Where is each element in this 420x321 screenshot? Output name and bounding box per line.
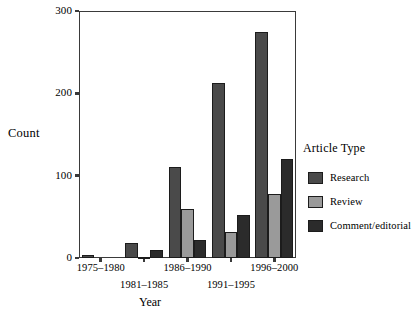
legend-swatch [308, 220, 323, 232]
y-tick-mark [75, 92, 79, 94]
legend-item[interactable]: Review [303, 190, 420, 214]
plot-area [79, 11, 296, 258]
x-tick-label: 1996–2000 [250, 262, 298, 273]
legend-item-label: Comment/editorial [330, 220, 411, 232]
x-tick-label: 1991–1995 [207, 279, 255, 290]
x-tick-label: 1975–1980 [77, 262, 125, 273]
legend-items: ResearchReviewComment/editorial [303, 166, 420, 238]
y-tick-mark [75, 10, 79, 12]
y-tick-mark [75, 257, 79, 259]
legend: Article Type ResearchReviewComment/edito… [303, 142, 420, 238]
legend-item[interactable]: Comment/editorial [303, 214, 420, 238]
legend-title: Article Type [303, 142, 420, 155]
y-tick-label: 200 [26, 87, 72, 98]
y-tick-label: 0 [26, 252, 72, 263]
y-tick-mark [75, 174, 79, 176]
x-tick-label: 1986–1990 [164, 262, 212, 273]
legend-swatch [308, 196, 323, 208]
x-tick-label: 1981–1985 [120, 279, 168, 290]
x-tick-mark [230, 258, 233, 262]
y-axis-title: Count [8, 127, 40, 140]
x-axis-title: Year [0, 296, 300, 309]
legend-swatch [308, 172, 323, 184]
legend-item-label: Research [330, 172, 369, 184]
legend-item[interactable]: Research [303, 166, 420, 190]
y-tick-label: 100 [26, 170, 72, 181]
legend-item-label: Review [330, 196, 363, 208]
y-tick-label: 300 [26, 5, 72, 16]
x-tick-mark [143, 258, 146, 262]
bar-chart-figure: 0100200300 Count 1975–19801981–19851986–… [0, 0, 420, 321]
y-axis: 0100200300 [0, 0, 79, 321]
